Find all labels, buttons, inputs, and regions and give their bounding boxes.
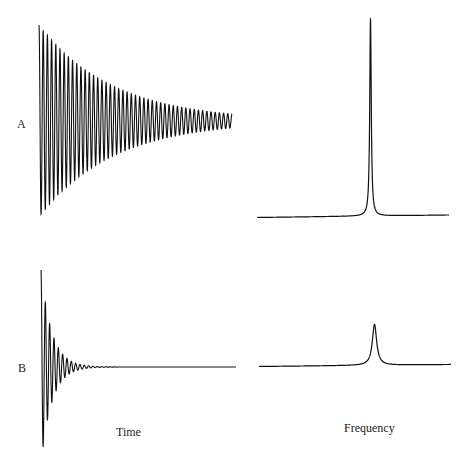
time-signal-b xyxy=(41,270,236,446)
time-signal-a xyxy=(39,25,232,214)
row-label-a: A xyxy=(17,117,26,132)
spectrum-a xyxy=(257,19,449,217)
row-label-b: B xyxy=(18,361,26,376)
spectrum-b xyxy=(259,324,451,366)
figure-canvas xyxy=(0,0,466,454)
x-axis-label-frequency: Frequency xyxy=(344,421,395,436)
x-axis-label-time: Time xyxy=(116,425,141,440)
